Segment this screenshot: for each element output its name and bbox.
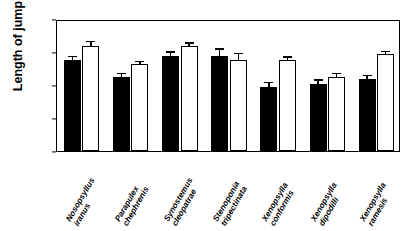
bar-white — [230, 60, 247, 151]
error-bar-cap — [234, 53, 243, 54]
bar-white — [181, 46, 198, 151]
error-bar-stem — [238, 54, 239, 60]
bar-group — [310, 19, 346, 151]
bar-group — [211, 19, 247, 151]
error-bar-cap — [332, 73, 341, 74]
bar-black — [260, 87, 277, 151]
error-bar-stem — [366, 76, 367, 79]
bar-white — [131, 64, 148, 151]
error-bar-stem — [90, 42, 91, 46]
bar-black — [211, 56, 228, 151]
plot-area — [56, 20, 400, 152]
error-bar-stem — [317, 81, 318, 84]
error-bar-cap — [381, 51, 390, 52]
y-axis-title: Length of jump (mm) — [11, 0, 25, 99]
bar-black — [359, 79, 376, 151]
x-axis-label: Xenopsyllaconformis — [261, 155, 312, 227]
bar-white — [377, 54, 394, 151]
error-bar-cap — [215, 48, 224, 49]
error-bar-stem — [121, 74, 122, 76]
bar-chart-figure: Length of jump (mm) 04080120160 Nosopsyl… — [0, 0, 416, 231]
bar-black — [310, 84, 327, 151]
x-axis-label: Stenoponiatripectinata — [212, 155, 263, 227]
x-axis-label: Parapulexchephrenis — [114, 155, 165, 227]
x-axis-label: Xenopsylladipodilli — [310, 155, 361, 227]
error-bar-cap — [314, 79, 323, 80]
error-bar-stem — [72, 57, 73, 60]
bar-group — [64, 19, 100, 151]
error-bar-cap — [68, 56, 77, 57]
error-bar-stem — [268, 83, 269, 86]
error-bar-cap — [185, 42, 194, 43]
error-bar-cap — [166, 51, 175, 52]
bar-group — [359, 19, 395, 151]
bar-white — [82, 46, 99, 151]
error-bar-cap — [117, 73, 126, 74]
bar-group — [162, 19, 198, 151]
error-bar-cap — [86, 41, 95, 42]
bar-group — [113, 19, 149, 151]
error-bar-cap — [264, 82, 273, 83]
bar-white — [328, 77, 345, 151]
error-bar-stem — [188, 44, 189, 46]
bar-black — [162, 56, 179, 151]
error-bar-stem — [287, 58, 288, 60]
error-bar-cap — [283, 56, 292, 57]
error-bar-stem — [139, 62, 140, 64]
x-axis-label: Xenopsyllaramesis — [360, 155, 411, 227]
x-axis-label: Nosopsyllusiranus — [65, 155, 116, 227]
error-bar-stem — [336, 74, 337, 76]
error-bar-stem — [219, 50, 220, 57]
error-bar-cap — [135, 61, 144, 62]
bar-black — [113, 77, 130, 151]
x-axis-label: Synostemuscleopatrae — [163, 155, 214, 227]
error-bar-stem — [385, 52, 386, 54]
bar-group — [260, 19, 296, 151]
error-bar-stem — [170, 53, 171, 56]
bar-white — [279, 60, 296, 151]
bar-black — [64, 60, 81, 151]
error-bar-cap — [363, 75, 372, 76]
